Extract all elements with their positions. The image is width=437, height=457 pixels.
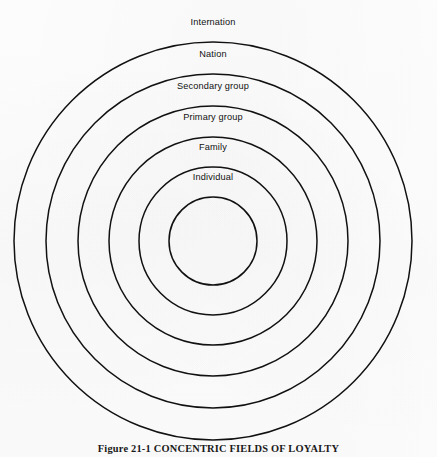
- concentric-circles-diagram: [0, 0, 437, 457]
- ring-circle: [169, 197, 257, 285]
- ring-circle: [14, 42, 412, 440]
- ring-label: Secondary group: [177, 81, 249, 92]
- ring-label: Individual: [193, 172, 233, 183]
- ring-circle: [139, 167, 287, 315]
- ring-label: Primary group: [183, 112, 243, 123]
- ring-label: Family: [199, 142, 227, 153]
- ring-label: Nation: [199, 49, 226, 60]
- ring-circle: [46, 74, 380, 408]
- caption-prefix: Figure: [98, 443, 128, 454]
- ring-circle: [109, 137, 317, 345]
- caption-title: CONCENTRIC FIELDS OF LOYALTY: [154, 443, 339, 454]
- rings-group: [14, 42, 412, 440]
- figure-page: InternationNationSecondary groupPrimary …: [0, 0, 437, 457]
- figure-caption: Figure 21-1 CONCENTRIC FIELDS OF LOYALTY: [98, 443, 339, 454]
- caption-number: 21-1: [131, 443, 151, 454]
- ring-label: Internation: [190, 17, 235, 28]
